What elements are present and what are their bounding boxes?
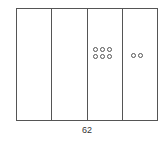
counter-circle: [93, 47, 98, 52]
counter-circle: [138, 53, 143, 58]
counter-circle: [107, 47, 112, 52]
place-value-chart: [16, 8, 158, 121]
counter-circle: [131, 53, 136, 58]
column-tens: [88, 9, 123, 120]
counter-circle: [100, 47, 105, 52]
column-ones: [123, 9, 157, 120]
column-hundreds: [52, 9, 87, 120]
counter-circle: [107, 54, 112, 59]
counter-circle: [100, 54, 105, 59]
column-thousands: [17, 9, 52, 120]
number-label: 62: [16, 125, 158, 135]
counter-circle: [93, 54, 98, 59]
